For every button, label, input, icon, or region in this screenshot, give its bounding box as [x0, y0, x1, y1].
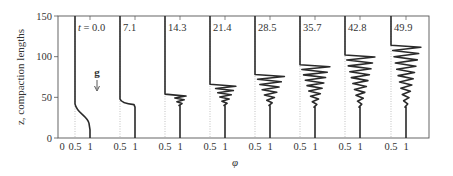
x-tick-label: 0.5: [203, 141, 216, 152]
x-tick-label: 0.5: [293, 141, 306, 152]
porosity-profile: [300, 16, 330, 138]
plot-frame: [58, 16, 429, 138]
gravity-indicator: g: [94, 66, 100, 91]
panel-4: 0.5128.5: [248, 16, 284, 152]
x-tick-label: 1: [357, 141, 362, 152]
x-tick-label: 1: [132, 141, 137, 152]
time-label: t = 0.0: [78, 22, 105, 33]
panel-7: 0.5149.9: [384, 16, 420, 152]
x-axis-label: φ: [232, 156, 238, 168]
x-tick-label: 0.5: [158, 141, 171, 152]
down-arrow-icon: [95, 80, 100, 91]
panel-5: 0.5135.7: [293, 16, 329, 152]
y-tick-label: 50: [42, 92, 53, 103]
x-tick-label: 0.5: [68, 141, 81, 152]
panels: 0.510t = 0.00.517.10.5114.30.5121.40.512…: [59, 16, 421, 152]
x-tick-label: 1: [403, 141, 408, 152]
time-label: 14.3: [168, 22, 186, 33]
porosity-profile: [165, 16, 186, 138]
panel-3: 0.5121.4: [203, 16, 235, 152]
y-axis: 050100150: [36, 11, 58, 144]
x-tick-label: 1: [267, 141, 272, 152]
time-label: 42.8: [348, 22, 366, 33]
x-tick-label: 1: [312, 141, 317, 152]
x-tick-label: 1: [177, 141, 182, 152]
time-label: 21.4: [213, 22, 232, 33]
time-label: 7.1: [123, 22, 136, 33]
y-tick-label: 150: [36, 11, 52, 22]
x-tick-label: 1: [87, 141, 92, 152]
panel-1: 0.517.1: [113, 16, 137, 152]
panel-6: 0.5142.8: [338, 16, 374, 152]
gravity-label: g: [94, 66, 100, 78]
porosity-profile: [345, 16, 375, 138]
x-tick-label: 0.5: [113, 141, 126, 152]
porosity-profile: [120, 16, 135, 138]
panel-2: 0.5114.3: [158, 16, 186, 152]
porosity-profile: [391, 16, 421, 138]
porosity-profile: [210, 16, 236, 138]
porosity-profile: [75, 16, 90, 138]
x-tick-label: 0.5: [248, 141, 261, 152]
x-tick-label: 1: [222, 141, 227, 152]
y-tick-label: 100: [36, 51, 52, 62]
x-tick-label: 0.5: [338, 141, 351, 152]
y-axis-label: z, compaction lengths: [14, 29, 26, 125]
x-tick-label: 0.5: [384, 141, 397, 152]
time-label: 49.9: [394, 22, 412, 33]
panel-0: 0.510t = 0.0: [59, 16, 105, 152]
y-tick-label: 0: [47, 133, 52, 144]
x-tick-label: 0: [59, 141, 64, 152]
time-label: 35.7: [303, 22, 321, 33]
chart: 050100150 0.510t = 0.00.517.10.5114.30.5…: [0, 0, 453, 176]
porosity-profile: [255, 16, 284, 138]
time-label: 28.5: [258, 22, 276, 33]
